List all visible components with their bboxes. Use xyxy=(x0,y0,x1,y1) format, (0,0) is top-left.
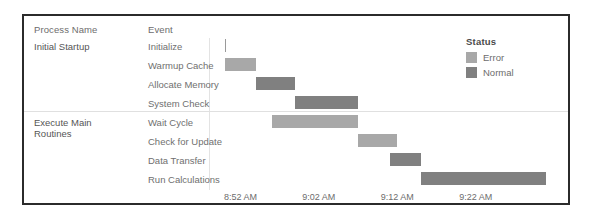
column-header-process-name: Process Name xyxy=(34,24,146,35)
gantt-bar[interactable] xyxy=(225,39,226,52)
time-axis: 8:52 AM9:02 AM9:12 AM9:22 AM xyxy=(209,192,570,206)
gantt-bar[interactable] xyxy=(272,115,358,128)
gantt-bar[interactable] xyxy=(358,134,397,147)
axis-tick-label: 9:12 AM xyxy=(381,192,414,202)
gantt-bar[interactable] xyxy=(225,58,256,71)
gantt-chart-frame: Process Name Event Initial StartupExecut… xyxy=(22,14,570,205)
legend-label: Normal xyxy=(483,67,514,78)
axis-tick-label: 8:52 AM xyxy=(224,192,257,202)
process-group-label: Execute Main Routines xyxy=(34,117,146,139)
gantt-bar[interactable] xyxy=(390,153,421,166)
column-header-event: Event xyxy=(148,24,228,35)
axis-tick-label: 9:02 AM xyxy=(302,192,335,202)
gantt-bar[interactable] xyxy=(295,96,358,109)
axis-tick-label: 9:22 AM xyxy=(459,192,492,202)
legend-swatch-icon xyxy=(466,52,477,63)
legend: Status ErrorNormal xyxy=(466,36,552,82)
gantt-bar[interactable] xyxy=(421,172,547,185)
legend-item[interactable]: Error xyxy=(466,52,552,63)
legend-title: Status xyxy=(466,36,552,47)
legend-swatch-icon xyxy=(466,67,477,78)
legend-item[interactable]: Normal xyxy=(466,67,552,78)
legend-label: Error xyxy=(483,52,504,63)
gantt-bar[interactable] xyxy=(256,77,295,90)
process-group-label: Initial Startup xyxy=(34,41,146,52)
